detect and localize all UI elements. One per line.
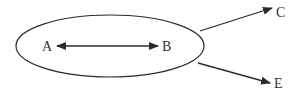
- diagram-canvas: A B C E: [0, 0, 301, 92]
- node-label-b: B: [162, 39, 171, 54]
- node-label-e: E: [274, 76, 283, 91]
- edge-group-c-arrow: [200, 8, 272, 31]
- node-label-a: A: [42, 39, 53, 54]
- node-label-c: C: [276, 5, 285, 20]
- edge-group-e-arrow: [198, 63, 270, 83]
- diagram-svg: A B C E: [0, 0, 301, 92]
